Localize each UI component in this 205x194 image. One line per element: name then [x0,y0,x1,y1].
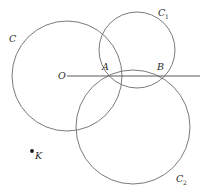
circle-c2 [76,70,190,184]
label-center-o: O [58,70,66,81]
label-circle-c: C [9,33,17,44]
point-k-dot [30,149,34,153]
label-circle-c1-subscript: 1 [165,13,169,20]
geometry-figure: C C 1 C 2 O A B K [0,0,205,194]
circle-c1 [99,12,175,88]
label-point-a: A [101,61,109,72]
label-circle-c2-subscript: 2 [183,179,187,186]
label-point-k: K [34,150,43,161]
geometry-canvas: C C 1 C 2 O A B K [0,0,205,194]
label-point-b: B [156,61,164,72]
